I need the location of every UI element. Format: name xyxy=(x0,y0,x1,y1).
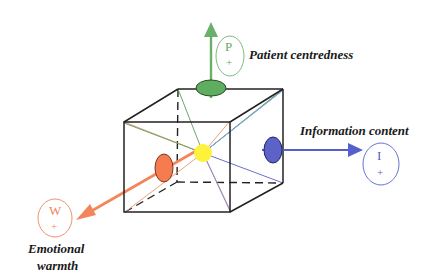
i-letter: I xyxy=(377,149,381,162)
axis-patient-centredness xyxy=(196,22,244,98)
arrow-head-icon xyxy=(204,22,218,37)
patient-node xyxy=(196,80,226,96)
emotional-warmth-label-line1: Emotional xyxy=(28,242,84,255)
cube-diagram: P + I + W + Patient centredness Informat… xyxy=(0,0,448,280)
diagram-canvas xyxy=(0,0,448,280)
axis-emotional-warmth xyxy=(76,151,196,220)
i-plus: + xyxy=(377,167,383,178)
p-letter: P xyxy=(225,40,232,53)
w-plus: + xyxy=(51,221,57,232)
emotional-warmth-label-line2: warmth xyxy=(37,259,78,272)
w-letter: W xyxy=(49,204,61,217)
information-content-label: Information content xyxy=(300,124,409,137)
emotional-node xyxy=(155,154,173,182)
arrow-head-icon xyxy=(76,204,96,220)
arrow-head-icon xyxy=(348,143,363,157)
p-plus: + xyxy=(226,57,232,68)
patient-centredness-label: Patient centredness xyxy=(249,48,353,61)
information-node xyxy=(264,137,282,163)
center-point xyxy=(194,144,212,162)
